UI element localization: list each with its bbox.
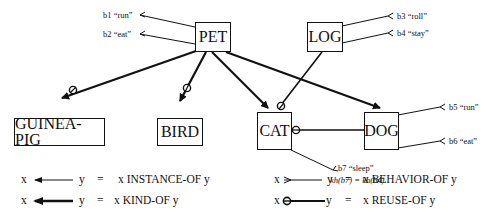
legend-eq-1: = bbox=[97, 174, 104, 186]
behavior-b6: b6 “eat” bbox=[449, 137, 477, 146]
legend-symbol-behavior bbox=[284, 177, 322, 183]
behavior-b5: b5 “run” bbox=[449, 103, 479, 112]
legend-symbol-instance bbox=[34, 177, 73, 183]
legend-meaning-reuse: x REUSE-OF y bbox=[363, 195, 435, 207]
behavior-b1: b1 “run” bbox=[103, 11, 133, 20]
node-dog: DOG bbox=[364, 112, 399, 150]
legend-x-1: x bbox=[21, 174, 27, 186]
legend-symbol-reuse bbox=[283, 197, 325, 204]
legend-eq-3: = bbox=[345, 174, 352, 186]
legend-y-4: y bbox=[326, 195, 332, 207]
behavior-b2: b2 “eat” bbox=[103, 30, 131, 39]
edge-cat-dog bbox=[292, 126, 364, 133]
behavior-b7: b7 “sleep” bbox=[338, 164, 374, 173]
legend-meaning-instance: x INSTANCE-OF y bbox=[118, 174, 210, 186]
legend-eq-4: = bbox=[345, 195, 352, 207]
legend-x-3: x bbox=[274, 174, 280, 186]
legend-y-3: y bbox=[327, 174, 333, 186]
node-bird: BIRD bbox=[157, 118, 203, 146]
legend-eq-2: = bbox=[97, 195, 104, 207]
edge-pet-dog bbox=[226, 52, 380, 108]
edge-log-cat bbox=[277, 52, 322, 110]
node-guinea-pig: GUINEA-PIG bbox=[14, 118, 105, 146]
legend-y-1: y bbox=[79, 174, 85, 186]
edge-pet-guinea-pig bbox=[62, 51, 196, 98]
behavior-b3: b3 “roll” bbox=[397, 12, 427, 21]
edge-pet-bird bbox=[180, 52, 206, 101]
node-pet: PET bbox=[195, 22, 231, 52]
behavior-b4: b4 “stay” bbox=[397, 29, 429, 38]
node-cat: CAT bbox=[257, 112, 292, 150]
legend-x-2: x bbox=[21, 195, 27, 207]
node-log: LOG bbox=[307, 22, 343, 52]
edge-pet-cat bbox=[212, 52, 268, 108]
legend-symbol-kind bbox=[33, 197, 73, 205]
legend-meaning-kind: x KIND-OF y bbox=[114, 195, 179, 207]
legend-y-2: y bbox=[79, 195, 85, 207]
legend-x-4: x bbox=[274, 195, 280, 207]
legend-meaning-behavior: x BEHAVIOR-OF y bbox=[363, 174, 457, 186]
